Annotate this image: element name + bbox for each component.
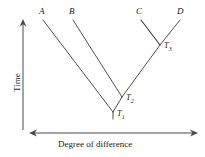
node-label-t1-subscript: 1 (122, 114, 125, 120)
difference-axis (29, 129, 198, 136)
branch-T3-T2 (122, 45, 160, 97)
taxon-label-a: A (39, 7, 45, 16)
phylogenetic-tree-figure: A B C D T1 T2 T3 Time Degree of differen… (0, 0, 205, 157)
node-label-t2: T2 (126, 93, 134, 104)
tree-branches (43, 20, 180, 119)
taxon-label-c: C (136, 7, 142, 16)
node-label-t1: T1 (117, 109, 125, 120)
difference-axis-label: Degree of difference (58, 140, 132, 149)
time-axis-label: Time (13, 73, 22, 92)
branch-C (141, 20, 160, 45)
tree-drawing (0, 0, 205, 157)
branch-B (73, 20, 122, 97)
node-label-t3: T3 (164, 41, 172, 52)
node-label-t3-subscript: 3 (169, 46, 172, 52)
taxon-label-b: B (69, 7, 75, 16)
taxon-label-d: D (177, 7, 184, 16)
node-label-t2-subscript: 2 (131, 98, 134, 104)
